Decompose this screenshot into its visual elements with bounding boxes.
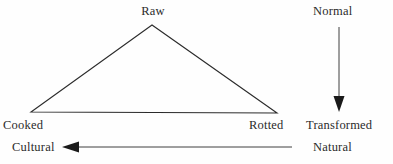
- horizontal-arrow-head-left-icon: [62, 142, 79, 153]
- label-cooked: Cooked: [3, 119, 43, 132]
- label-normal: Normal: [313, 5, 352, 18]
- label-rotted: Rotted: [249, 119, 284, 132]
- triangle-outline: [31, 25, 277, 113]
- label-cultural: Cultural: [12, 141, 55, 154]
- label-transformed: Transformed: [306, 119, 372, 132]
- vertical-arrow-head-down-icon: [334, 96, 345, 112]
- label-natural: Natural: [313, 141, 352, 154]
- culinary-triangle-diagram: Raw Cooked Rotted Normal Transformed Nat…: [0, 0, 393, 164]
- label-raw: Raw: [141, 5, 165, 18]
